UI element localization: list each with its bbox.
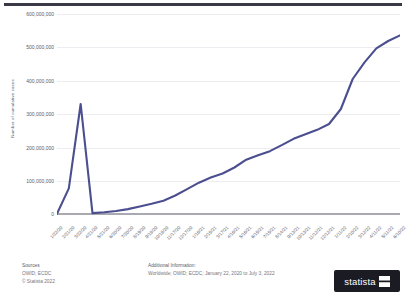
x-tick-label: 6/15/21 — [250, 225, 264, 239]
statista-logo-text: statista — [344, 276, 375, 287]
y-axis-tick-labels: 600,000,000 500,000,000 400,000,000 300,… — [6, 6, 54, 215]
x-tick-label: 7/15/21 — [262, 225, 276, 239]
chart-footer: Sources OWID; ECDC © Statista 2022 Addit… — [0, 258, 406, 299]
series-svg — [57, 6, 400, 215]
y-tick-label: 600,000,000 — [26, 11, 54, 17]
footer-additional-value: Worldwide; OWID; ECDC; January 22, 2020 … — [148, 270, 275, 278]
line-series-cumulative-cases — [57, 35, 400, 213]
x-axis-tick-labels: 1/22/202/21/203/22/204/21/205/21/206/20/… — [57, 225, 400, 259]
statista-flag-icon — [379, 276, 390, 287]
footer-sources-value: OWID; ECDC — [22, 270, 55, 278]
y-tick-label: 100,000,000 — [26, 178, 54, 184]
y-tick-label: 200,000,000 — [26, 145, 54, 151]
x-tick-label: 2/21/20 — [61, 225, 75, 239]
y-tick-label: 400,000,000 — [26, 78, 54, 84]
x-tick-label: 1/22/20 — [49, 225, 63, 239]
footer-copyright: © Statista 2022 — [22, 278, 55, 286]
y-tick-label: 500,000,000 — [26, 44, 54, 50]
x-tick-label: 7/20/20 — [120, 225, 134, 239]
y-tick-label: 0 — [51, 211, 54, 217]
footer-additional-block: Additional Information: Worldwide; OWID;… — [148, 262, 275, 278]
x-tick-label: 6/10/22 — [392, 225, 406, 239]
x-tick-label: 6/20/20 — [108, 225, 122, 239]
footer-sources-heading: Sources — [22, 262, 55, 270]
footer-additional-heading: Additional Information: — [148, 262, 275, 270]
y-tick-label: 300,000,000 — [26, 111, 54, 117]
statista-logo[interactable]: statista — [334, 270, 400, 292]
x-tick-label: 1/11/22 — [333, 225, 347, 239]
plot-canvas — [57, 6, 400, 215]
chart-plot-area: Number of cumulative cases 600,000,000 5… — [0, 6, 406, 221]
chart-page: Number of cumulative cases 600,000,000 5… — [0, 0, 406, 299]
footer-sources-block: Sources OWID; ECDC © Statista 2022 — [22, 262, 55, 285]
